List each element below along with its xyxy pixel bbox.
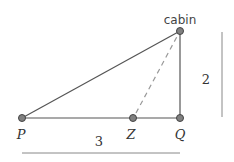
segment-p-cabin bbox=[22, 31, 180, 118]
label-cabin: cabin bbox=[164, 13, 197, 27]
label-horizontal-measure: 3 bbox=[95, 134, 103, 149]
label-p: P bbox=[16, 127, 26, 142]
label-q: Q bbox=[175, 127, 186, 142]
point-z bbox=[130, 115, 137, 122]
label-vertical-measure: 2 bbox=[202, 72, 210, 87]
point-cabin bbox=[177, 28, 184, 35]
diagram-canvas: cabin P Z Q 3 2 bbox=[0, 0, 234, 162]
point-p bbox=[19, 115, 26, 122]
label-z: Z bbox=[125, 127, 136, 142]
point-q bbox=[177, 115, 184, 122]
